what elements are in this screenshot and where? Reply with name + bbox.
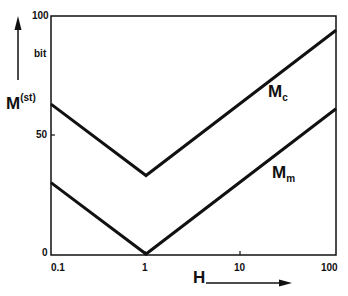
x-axis-arrow-icon <box>279 280 292 287</box>
chart-canvas <box>0 0 348 296</box>
y-tick-label-100: 100 <box>32 10 49 21</box>
series-line-mc <box>51 30 336 175</box>
x-tick-label-10: 10 <box>234 262 245 273</box>
series-label-mm: Mm <box>272 163 295 184</box>
x-tick-label-0.1: 0.1 <box>51 262 65 273</box>
y-tick-label-50: 50 <box>36 129 47 140</box>
x-axis-title: H <box>193 268 205 288</box>
series-label-mc: Mc <box>268 82 288 103</box>
x-tick-label-1: 1 <box>142 262 148 273</box>
y-unit-label: bit <box>34 48 46 59</box>
x-tick-label-100: 100 <box>321 262 338 273</box>
y-axis-title: M(st) <box>6 92 36 114</box>
y-axis-arrow-icon <box>15 16 22 30</box>
y-tick-label-0: 0 <box>42 247 48 258</box>
